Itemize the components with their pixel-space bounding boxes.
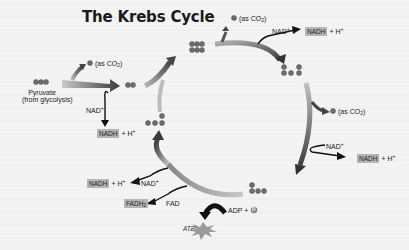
fadh2-product: FADH2 — [124, 200, 148, 208]
co2-close: ) — [264, 15, 266, 22]
nadh-product-1: NADH + H+ — [97, 129, 135, 138]
co2-label: (as CO — [239, 15, 261, 22]
h-plus-text: + H — [121, 130, 132, 137]
h-superscript: + — [132, 128, 135, 134]
h-superscript: + — [340, 26, 343, 32]
cycle-arc-bottom — [168, 164, 243, 195]
adp-text: ADP + — [228, 207, 248, 214]
h-plus-text: + H — [111, 180, 122, 187]
nad-label-2: NAD+ — [272, 27, 290, 35]
nadh-product-4: NADH + H+ — [87, 179, 125, 188]
diagram-title: The Krebs Cycle — [82, 8, 214, 26]
co2-release-1: (as CO2) — [95, 60, 122, 68]
nad-text: NAD — [326, 143, 341, 150]
adp-to-atp-arrow — [199, 206, 225, 220]
co2-release-3: (as CO2) — [338, 108, 365, 116]
adp-plus-phosphate: ADP + — [228, 207, 248, 214]
pyruvate-input-arrow — [62, 64, 120, 92]
fadh-subscript: 2 — [143, 202, 146, 208]
nad-text: NAD — [272, 28, 287, 35]
nad-superscript: + — [341, 141, 344, 147]
fad-label: FAD — [166, 200, 180, 207]
carbon-molecules — [34, 16, 336, 214]
cycle-arc-left — [152, 130, 168, 164]
co2-label: (as CO — [338, 108, 360, 115]
nadh-product-3: NADH + H+ — [357, 154, 395, 163]
h-plus-text: + H — [329, 28, 340, 35]
nadh-box: NADH — [87, 179, 109, 188]
nadh-product-2: NADH + H+ — [305, 27, 343, 36]
co2-close: ) — [120, 60, 122, 67]
co2-release-2: (as CO2) — [239, 15, 266, 23]
nadh-box: NADH — [357, 154, 379, 163]
pyruvate-label-line1: Pyruvate — [22, 89, 62, 96]
nad-label-4: NAD+ — [141, 179, 159, 187]
nad-superscript: + — [156, 178, 159, 184]
nadh-box: NADH — [97, 129, 119, 138]
nad-label-3: NAD+ — [326, 142, 344, 150]
nad-superscript: + — [101, 105, 104, 111]
nad-text: NAD — [86, 107, 101, 114]
pyruvate-label: Pyruvate (from glycolysis) — [22, 89, 62, 103]
nad-label-1: NAD+ — [86, 106, 104, 114]
fadh-text: FADH — [126, 200, 143, 207]
co2-close: ) — [363, 108, 365, 115]
nad-text: NAD — [141, 180, 156, 187]
phosphate-label: P — [252, 207, 255, 212]
h-superscript: + — [392, 153, 395, 159]
nad-superscript: + — [287, 26, 290, 32]
atp-label: ATP — [183, 225, 195, 232]
h-plus-text: + H — [381, 155, 392, 162]
krebs-cycle-diagram — [0, 0, 409, 250]
cycle-arc-top-left — [145, 56, 176, 112]
pyruvate-label-line2: (from glycolysis) — [22, 96, 62, 103]
fadh2-box: FADH2 — [124, 199, 148, 208]
h-superscript: + — [122, 178, 125, 184]
co2-label: (as CO — [95, 60, 117, 67]
cycle-arc-right — [295, 83, 330, 175]
nadh-box: NADH — [305, 27, 327, 36]
